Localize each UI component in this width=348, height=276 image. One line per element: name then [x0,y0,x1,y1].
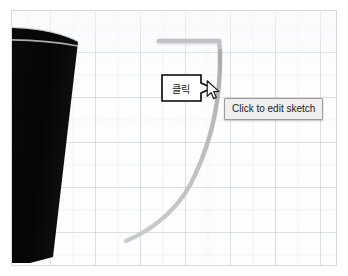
callout-text: 클릭 [161,74,201,102]
highlighted-sketch-curve[interactable] [126,41,220,241]
sketch-canvas[interactable] [11,10,337,266]
screenshot-root: 클릭 Click to edit sketch [0,0,348,276]
arrow-pointer-icon [206,80,222,101]
sketch-tooltip: Click to edit sketch [224,98,323,120]
geometry-layer [12,11,337,266]
cone-solid[interactable] [12,27,78,263]
